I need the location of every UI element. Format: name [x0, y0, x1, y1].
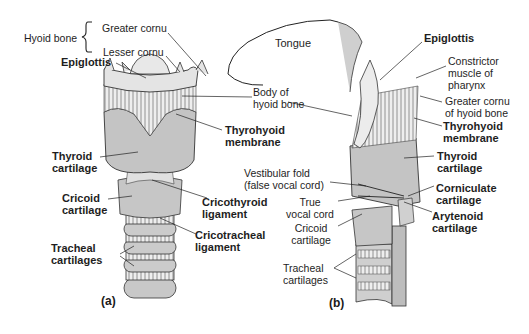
label-vestibular-fold-line2: (false vocal cord)	[244, 179, 324, 191]
panel-b-label: (b)	[329, 296, 344, 310]
label-constrictor-line1: Constrictor	[448, 55, 499, 67]
label-tracheal-cartilages-b-line1: Tracheal	[283, 262, 323, 274]
label-tracheal-cartilages-a-line1: Tracheal	[51, 242, 96, 254]
label-hyoid-bone: Hyoid bone	[24, 32, 77, 44]
label-tracheal-cartilages-b-line2: cartilages	[283, 274, 328, 286]
label-cricoid-cartilage-b-line1: Cricoid	[286, 222, 336, 234]
label-cricothyroid-line1: Cricothyroid	[202, 196, 267, 208]
panel-a-drawing	[104, 54, 208, 298]
panel-a-label: (a)	[101, 294, 116, 308]
label-thyrohyoid-a-line1: Thyrohyoid	[225, 124, 285, 136]
label-cricoid-cartilage-a-line1: Cricoid	[62, 192, 100, 204]
label-cricoid-cartilage-b-line2: cartilage	[286, 234, 336, 246]
label-thyroid-cartilage-a-line2: cartilage	[52, 162, 97, 174]
label-epiglottis-b: Epiglottis	[424, 32, 474, 44]
label-thyroid-cartilage-b-line2: cartilage	[437, 162, 482, 174]
label-vestibular-fold-line1: Vestibular fold	[244, 167, 310, 179]
label-tongue: Tongue	[275, 37, 311, 49]
label-cricothyroid-line2: ligament	[202, 208, 247, 220]
panel-b-drawing	[350, 60, 420, 306]
label-thyrohyoid-b-line2: membrane	[443, 132, 499, 144]
label-epiglottis-a: Epiglottis	[61, 56, 111, 68]
label-corniculate-line1: Corniculate	[436, 182, 497, 194]
label-body-hyoid-line2: hyoid bone	[253, 98, 304, 110]
label-cricotracheal-line2: ligament	[195, 241, 240, 253]
label-true-vocal-cord-line2: vocal cord	[282, 208, 338, 220]
label-body-hyoid-line1: Body of	[253, 86, 289, 98]
label-thyrohyoid-a-line2: membrane	[225, 136, 281, 148]
label-thyrohyoid-b-line1: Thyrohyoid	[443, 120, 503, 132]
label-tracheal-cartilages-a-line2: cartilages	[51, 254, 102, 266]
label-thyroid-cartilage-a-line1: Thyroid	[52, 150, 92, 162]
label-true-vocal-cord-line1: True	[282, 196, 338, 208]
label-greater-cornu-b-line1: Greater cornu	[445, 95, 510, 107]
label-arytenoid-line1: Arytenoid	[432, 210, 483, 222]
label-lesser-cornu: Lesser cornu	[103, 46, 164, 58]
label-thyroid-cartilage-b-line1: Thyroid	[437, 150, 477, 162]
label-cricotracheal-line1: Cricotracheal	[195, 229, 265, 241]
label-corniculate-line2: cartilage	[436, 194, 481, 206]
label-greater-cornu: Greater cornu	[102, 22, 167, 34]
label-greater-cornu-b-line2: of hyoid bone	[445, 107, 508, 119]
label-arytenoid-line2: cartilage	[432, 222, 477, 234]
label-constrictor-line3: pharynx	[448, 79, 485, 91]
label-cricoid-cartilage-a-line2: cartilage	[62, 204, 107, 216]
label-constrictor-line2: muscle of	[448, 67, 493, 79]
